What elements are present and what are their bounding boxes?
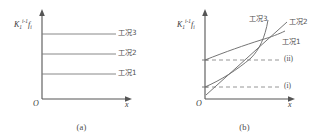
origin-label-b: O (196, 100, 202, 108)
y-axis-label-b-f-sub: i (193, 24, 195, 30)
panel-b: K1i-1fi O x 工况3 工况2 工况1 (ii) (i) (b) (163, 0, 326, 136)
y-axis-label-b: K1i-1fi (177, 19, 195, 31)
curve-label-b-condition-2: 工况2 (289, 18, 308, 25)
curve-condition-3 (205, 20, 268, 87)
panel-b-caption: (b) (163, 122, 326, 132)
curve-label-a-condition-2: 工况2 (118, 49, 137, 56)
reference-label-i: (i) (284, 82, 291, 89)
x-axis-label-a: x (125, 101, 129, 109)
y-axis-label-a: K1i-1fi (14, 19, 32, 31)
x-axis-label-b: x (288, 101, 292, 109)
curve-label-b-condition-3: 工况3 (249, 15, 268, 22)
reference-label-ii: (ii) (284, 55, 293, 62)
y-axis-label-a-f-sub: i (30, 24, 32, 30)
panel-a-caption: (a) (0, 122, 163, 132)
y-axis-label-a-K-sub: 1 (19, 24, 22, 30)
figure-container: K1i-1fi O x 工况3 工况2 工况1 (a) (0, 0, 326, 136)
y-axis-label-b-K-sub: 1 (182, 24, 185, 30)
curve-label-a-condition-1: 工况1 (118, 69, 137, 76)
panel-a: K1i-1fi O x 工况3 工况2 工况1 (a) (0, 0, 163, 136)
curve-label-b-condition-1: 工况1 (282, 38, 301, 45)
origin-label-a: O (33, 100, 39, 108)
y-axis-arrow-b (202, 9, 208, 16)
curve-condition-2 (206, 22, 287, 95)
curve-label-a-condition-3: 工况3 (118, 29, 137, 36)
y-axis-arrow-a (39, 9, 45, 16)
curve-condition-1 (205, 31, 285, 60)
